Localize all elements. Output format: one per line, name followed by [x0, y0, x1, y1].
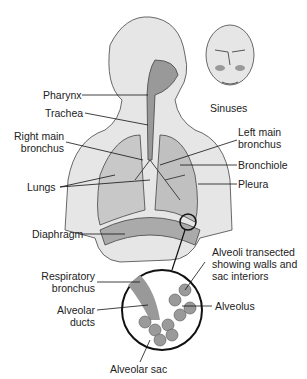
label-pleura: Pleura [238, 178, 268, 190]
label-right-main-bronchus-1: Right main [14, 130, 64, 142]
label-alveolar-ducts-1: Alveolar [30, 304, 95, 316]
sinus-head [206, 25, 254, 85]
label-lungs: Lungs [27, 181, 56, 193]
label-sinuses: Sinuses [210, 102, 247, 114]
label-bronchiole: Bronchiole [238, 159, 288, 171]
label-respiratory-bronchus-1: Respiratory [30, 270, 95, 282]
label-right-main-bronchus-2: bronchus [14, 142, 64, 154]
label-left-main-bronchus-2: bronchus [238, 138, 281, 150]
label-alveolar-ducts-2: ducts [30, 316, 95, 328]
label-respiratory-bronchus-2: bronchus [30, 282, 95, 294]
label-left-main-bronchus-1: Left main [238, 126, 281, 138]
label-diaphragm: Diaphragm [32, 228, 83, 240]
label-alveolar-sac: Alveolar sac [110, 363, 167, 375]
label-trachea: Trachea [45, 107, 83, 119]
label-alveolus: Alveolus [215, 300, 255, 312]
label-pharynx: Pharynx [43, 89, 82, 101]
label-alveoli-2: showing walls and [212, 258, 297, 270]
label-alveoli-1: Alveoli transected [212, 246, 295, 258]
label-alveoli-3: sac interiors [212, 270, 269, 282]
